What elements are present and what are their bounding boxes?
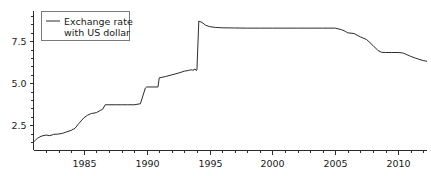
x-tick-label-1985: 1985 (72, 158, 96, 169)
legend: Exchange rate with US dollar (42, 12, 133, 41)
y-tick-label-5.0: 5.0 (11, 78, 26, 89)
y-axis-major-ticks (30, 42, 34, 126)
x-tick-label-2010: 2010 (386, 158, 410, 169)
x-axis-tick-labels: 198519901995200020052010 (72, 158, 410, 169)
legend-label-line1: Exchange rate (64, 16, 133, 27)
y-axis-tick-labels: 2.55.07.5 (11, 36, 26, 131)
y-tick-label-7.5: 7.5 (11, 36, 26, 47)
x-tick-label-2005: 2005 (323, 158, 347, 169)
x-axis-major-ticks (85, 151, 399, 155)
x-tick-label-1995: 1995 (198, 158, 222, 169)
y-tick-label-2.5: 2.5 (11, 120, 26, 131)
x-axis: 198519901995200020052010 (34, 151, 428, 169)
y-axis: 2.55.07.5 (11, 11, 33, 150)
x-tick-label-2000: 2000 (260, 158, 284, 169)
chart-screenshot: 2.55.07.5 198519901995200020052010 Excha… (0, 0, 431, 176)
legend-label-line2: with US dollar (64, 27, 130, 38)
exchange-rate-line-chart: 2.55.07.5 198519901995200020052010 Excha… (0, 0, 431, 176)
x-tick-label-1990: 1990 (135, 158, 159, 169)
